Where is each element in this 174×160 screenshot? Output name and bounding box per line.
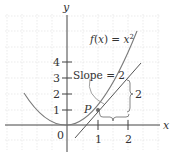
y-tick-label-3: 3 (53, 72, 60, 85)
origin-label: 0 (57, 129, 64, 142)
axes (5, 15, 160, 152)
run-brace (99, 111, 129, 121)
diagram-canvas: y x 0 1 2 3 4 1 2 f(x) = x2 Slope = 2 P … (0, 0, 174, 160)
y-tick-label-2: 2 (53, 88, 60, 101)
x-tick-label-1: 1 (95, 133, 102, 146)
tangent-line-diagram: y x 0 1 2 3 4 1 2 f(x) = x2 Slope = 2 P … (0, 0, 174, 160)
x-axis-label: x (163, 119, 170, 132)
y-tick-label-4: 4 (53, 56, 60, 69)
tangent-slope-label: Slope = 2 (73, 69, 125, 81)
point-p-label: P (83, 103, 92, 116)
rise-label: 2 (135, 88, 142, 101)
curve-label: f(x) = x2 (89, 33, 134, 45)
y-tick-label-1: 1 (53, 104, 60, 117)
y-axis-label: y (62, 1, 70, 14)
x-tick-label-2: 2 (125, 133, 132, 146)
